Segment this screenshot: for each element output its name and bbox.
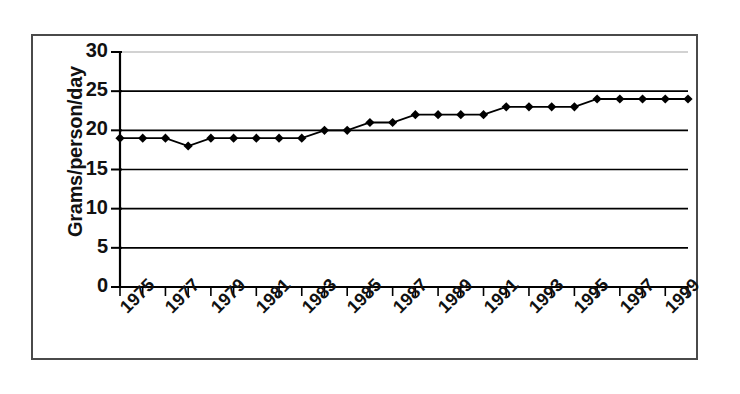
y-tick-label: 30 — [62, 39, 108, 62]
data-point — [274, 134, 283, 143]
data-point — [683, 94, 692, 103]
y-tick-label: 25 — [62, 78, 108, 101]
y-tick-label: 15 — [62, 157, 108, 180]
data-point — [388, 118, 397, 127]
data-point — [206, 134, 215, 143]
data-point — [184, 141, 193, 150]
data-point — [115, 134, 124, 143]
y-tick-label: 0 — [62, 274, 108, 297]
y-tick-label: 5 — [62, 235, 108, 258]
gridlines — [120, 52, 688, 287]
data-point — [297, 134, 306, 143]
data-point — [661, 94, 670, 103]
data-point — [479, 110, 488, 119]
data-point — [433, 110, 442, 119]
data-point — [161, 134, 170, 143]
data-point — [229, 134, 238, 143]
data-point — [502, 102, 511, 111]
data-point — [320, 126, 329, 135]
y-tick-label: 10 — [62, 196, 108, 219]
data-point — [138, 134, 147, 143]
data-point — [411, 110, 420, 119]
data-point — [593, 94, 602, 103]
data-point — [638, 94, 647, 103]
data-point — [343, 126, 352, 135]
data-line — [120, 99, 688, 146]
data-point — [524, 102, 533, 111]
data-point — [456, 110, 465, 119]
chart-frame: Grams/person/day 051015202530 1975197719… — [31, 34, 698, 360]
data-point — [547, 102, 556, 111]
y-tick-label: 20 — [62, 117, 108, 140]
data-point — [365, 118, 374, 127]
data-point — [570, 102, 579, 111]
data-point — [615, 94, 624, 103]
chart-figure: Grams/person/day 051015202530 1975197719… — [0, 0, 740, 394]
data-point — [252, 134, 261, 143]
